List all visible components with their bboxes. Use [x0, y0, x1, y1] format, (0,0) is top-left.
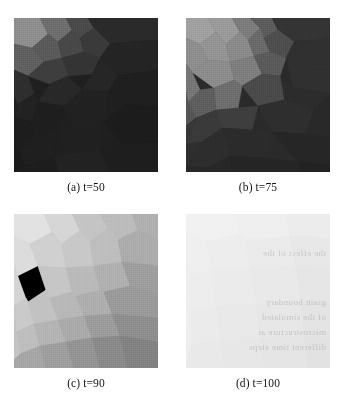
- grain-polygon: [256, 302, 304, 338]
- figure-panel-d: the effect of thegrain boundaryof the si…: [172, 196, 344, 392]
- grain-polygon: [54, 150, 110, 172]
- grain-polygons-a: [14, 18, 158, 172]
- grain-polygon: [260, 336, 308, 368]
- figure-panel-c: (c) t=90: [0, 196, 172, 392]
- grain-polygon: [230, 156, 302, 172]
- grain-polygon: [216, 106, 258, 130]
- grain-polygon: [186, 340, 224, 368]
- grain-polygon: [220, 338, 264, 368]
- grain-polygon: [104, 104, 158, 144]
- panel-caption-a: (a) t=50: [67, 181, 105, 194]
- grain-polygon: [296, 266, 330, 304]
- grain-polygon: [304, 336, 330, 368]
- grain-polygons-c: [14, 214, 158, 368]
- grain-polygon: [216, 304, 260, 340]
- grain-polygon: [290, 236, 330, 270]
- figure-panel-b: (b) t=75: [172, 0, 344, 196]
- grain-polygon: [100, 142, 158, 172]
- micrograph-image-a: [14, 18, 158, 172]
- grain-polygons-b: [186, 18, 330, 172]
- grain-polygon: [58, 122, 104, 154]
- grain-structure-c: [14, 214, 158, 368]
- grain-structure-d: [186, 214, 330, 368]
- grain-polygon: [300, 302, 330, 338]
- figure-container: (a) t=50 (b) t=75 (c) t=90: [0, 0, 346, 402]
- grain-polygons-d: [186, 214, 330, 368]
- micrograph-image-b: [186, 18, 330, 172]
- grain-structure-a: [14, 18, 158, 172]
- panel-caption-c: (c) t=90: [67, 377, 105, 390]
- grain-structure-b: [186, 18, 330, 172]
- grain-polygon: [190, 306, 220, 344]
- grain-polygon: [212, 268, 256, 306]
- grain-polygon: [250, 266, 300, 304]
- panel-caption-d: (d) t=100: [236, 377, 280, 390]
- panel-grid: (a) t=50 (b) t=75 (c) t=90: [0, 0, 346, 402]
- micrograph-image-c: [14, 214, 158, 368]
- micrograph-image-d: the effect of thegrain boundaryof the si…: [186, 214, 330, 368]
- grain-polygon: [246, 236, 296, 268]
- panel-caption-b: (b) t=75: [239, 181, 277, 194]
- figure-panel-a: (a) t=50: [0, 0, 172, 196]
- grain-polygon: [188, 270, 216, 310]
- grain-polygon: [286, 214, 330, 238]
